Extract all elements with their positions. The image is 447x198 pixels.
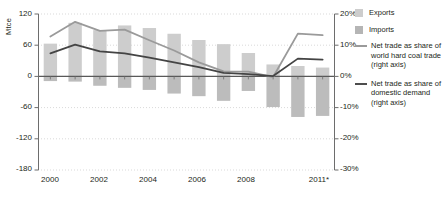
- chart-canvas: [38, 14, 335, 170]
- legend-line-domestic-demand: [355, 83, 367, 85]
- y-tick-left-0: 120: [2, 10, 32, 18]
- y-tick-left-1: 60: [2, 41, 32, 49]
- y-tick-right-5: -30%: [340, 165, 374, 173]
- x-tick-1: 2002: [79, 176, 119, 184]
- y-tick-left-5: -180: [2, 165, 32, 173]
- x-tick-3: 2006: [177, 176, 217, 184]
- x-tick-4: 2008: [226, 176, 266, 184]
- plot-area: [38, 14, 335, 170]
- legend-item-domestic-demand: Net trade as share of domestic demand (r…: [355, 79, 447, 108]
- legend-item-imports: Imports: [355, 25, 447, 35]
- legend-label-world-trade: Net trade as share of world hard coal tr…: [371, 41, 447, 70]
- y-tick-left-4: -120: [2, 134, 32, 142]
- legend-item-exports: Exports: [355, 8, 447, 18]
- legend-label-imports: Imports: [369, 25, 394, 35]
- y-tick-left-3: -60: [2, 103, 32, 111]
- y-tick-left-2: 0: [2, 72, 32, 80]
- legend-label-exports: Exports: [369, 8, 394, 18]
- legend-swatch-imports: [355, 26, 363, 34]
- x-tick-5: 2011*: [299, 176, 339, 184]
- legend: Exports Imports Net trade as share of wo…: [355, 8, 447, 116]
- x-tick-2: 2004: [128, 176, 168, 184]
- y-tick-right-4: -20%: [340, 134, 374, 142]
- legend-item-world-trade: Net trade as share of world hard coal tr…: [355, 41, 447, 70]
- legend-label-domestic-demand: Net trade as share of domestic demand (r…: [371, 79, 447, 108]
- chart-figure: Mtce 120 60 0 -60 -120 -180 20% 10% 0% -…: [0, 0, 447, 198]
- legend-swatch-exports: [355, 9, 363, 17]
- legend-line-world-trade: [355, 45, 367, 47]
- x-tick-0: 2000: [30, 176, 70, 184]
